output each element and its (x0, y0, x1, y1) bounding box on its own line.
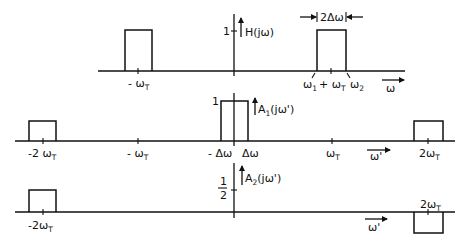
h-pos-passband (317, 30, 346, 71)
a1-label-wT: ωT (326, 147, 340, 162)
a2-function-label: A2(jω') (245, 172, 281, 187)
diagram-svg: 1 H(jω) - ωT 2Δω ω1 + ωT ω2 ω 1 A1(jω') (0, 0, 466, 245)
panel-h-jw: 1 H(jω) - ωT 2Δω ω1 + ωT ω2 ω (98, 11, 405, 95)
h-amplitude-label: 1 (223, 25, 230, 38)
width-annotation: 2Δω (320, 11, 344, 24)
a1-amplitude-label: 1 (212, 95, 219, 108)
h-neg-passband (125, 30, 152, 71)
a2-amplitude-den: 2 (220, 189, 227, 202)
panel-a2: 1 2 A2(jω') -2ωT 2ωT ω' (15, 163, 455, 234)
a2-rect-neg2wT (29, 190, 56, 212)
frequency-spectra-diagram: 1 H(jω) - ωT 2Δω ω1 + ωT ω2 ω 1 A1(jω') (0, 0, 466, 245)
a1-label-2wT: 2ωT (419, 147, 440, 162)
a2-label-m2wT: -2ωT (28, 219, 53, 234)
h-label-w2: ω2 (350, 78, 364, 93)
a2-axis-variable: ω' (368, 221, 380, 234)
h-axis-variable: ω (386, 82, 395, 95)
a1-label-mwT: - ωT (127, 147, 149, 162)
a1-axis-variable: ω' (370, 150, 382, 163)
h-label-w1: ω1 (303, 78, 317, 93)
a1-label-m2wT: -2 ωT (28, 147, 57, 162)
a1-label-dw: Δω (242, 147, 259, 160)
h-label-pos-wT: + ωT (319, 78, 346, 93)
w1-leader (312, 73, 315, 78)
a1-label-mdw: - Δω (208, 147, 232, 160)
a2-label-2wT: 2ωT (420, 198, 441, 213)
a2-rect-pos2wT-inverted (414, 212, 443, 233)
panel-a1: 1 A1(jω') -2 ωT - ωT - Δω Δω ωT 2ωT ω' (15, 93, 455, 163)
h-function-label: H(jω) (245, 26, 274, 39)
h-label-neg-wT: - ωT (128, 77, 150, 92)
a2-amplitude-num: 1 (220, 175, 227, 188)
a1-function-label: A1(jω') (258, 103, 294, 118)
